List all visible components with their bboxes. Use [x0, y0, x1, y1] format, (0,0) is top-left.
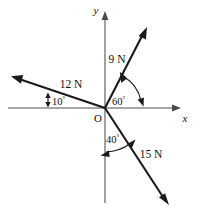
angle-60-marker: 60° [112, 72, 144, 107]
vector-15n: 15 N [105, 108, 169, 205]
angle-10-degree-symbol: ° [63, 95, 66, 103]
angle-10-marker: 10° [45, 93, 65, 108]
y-axis-label: y [93, 4, 99, 16]
origin-label: O [94, 112, 102, 124]
angle-40-label: 40° [106, 133, 120, 145]
angle-40-value: 40 [106, 134, 117, 145]
vector-9n-label: 9 N [109, 53, 127, 65]
vector-12n-arrowhead [11, 75, 23, 84]
angle-60-label: 60° [112, 95, 126, 107]
vector-12n-label: 12 N [60, 78, 83, 90]
x-axis-arrowhead [172, 105, 181, 112]
angle-10-label: 10° [52, 95, 66, 107]
vector-15n-label: 15 N [140, 148, 163, 160]
axes-group [8, 11, 181, 203]
angle-60-value: 60 [112, 96, 123, 107]
angle-10-arrowhead-bottom [45, 102, 50, 108]
angle-60-arrowhead-axis [138, 97, 144, 106]
diagram-canvas: x y O 12 N 10° 9 N 60° [0, 0, 204, 218]
angle-40-degree-symbol: ° [117, 133, 120, 141]
vector-diagram: x y O 12 N 10° 9 N 60° [0, 0, 204, 218]
angle-60-arc [124, 77, 142, 102]
angle-10-arrowhead-top [45, 93, 50, 99]
angle-60-degree-symbol: ° [123, 95, 126, 103]
angle-10-value: 10 [52, 96, 63, 107]
x-axis-label: x [182, 112, 188, 124]
vector-9n-arrowhead [139, 27, 147, 40]
angle-40-arrowhead-vector [127, 140, 136, 149]
y-axis-arrowhead [102, 11, 109, 20]
